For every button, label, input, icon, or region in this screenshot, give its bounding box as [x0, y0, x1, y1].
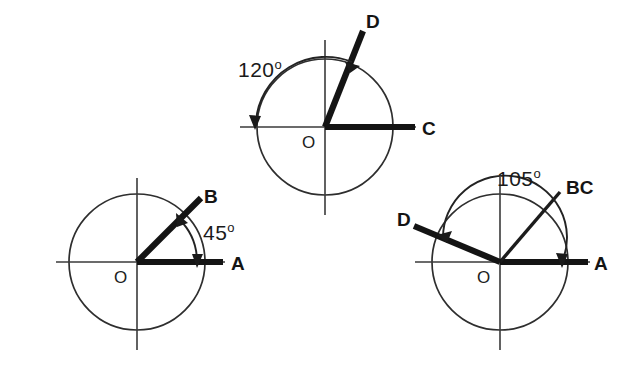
point-label-D-3: D [397, 209, 411, 230]
ray-OBC-3 [500, 192, 560, 262]
degree-symbol-2: o [275, 57, 283, 72]
point-label-D-2: D [366, 11, 380, 32]
diagram-105-degrees: D A BC O 105o [397, 166, 608, 350]
point-label-BC-3: BC [566, 177, 594, 198]
origin-label-3: O [477, 268, 490, 287]
point-label-A-1: A [231, 253, 245, 274]
degree-symbol-3: o [534, 166, 542, 181]
angle-number-2: 120 [238, 58, 275, 81]
diagram-120-degrees: D C O 120o [238, 11, 436, 215]
ray-OB-1 [137, 198, 201, 262]
ray-OD-2 [325, 31, 363, 127]
origin-label-1: O [114, 268, 127, 287]
point-label-C-2: C [422, 118, 436, 139]
point-label-A-3: A [594, 253, 608, 274]
angle-number-3: 105 [497, 167, 534, 190]
degree-symbol-1: o [227, 220, 235, 235]
angle-number-1: 45 [203, 221, 227, 244]
ray-OD-3 [414, 226, 500, 262]
angle-value-1: 45o [203, 220, 235, 244]
diagram-45-degrees: B A O 45o [56, 178, 245, 350]
point-label-B-1: B [204, 186, 218, 207]
angle-diagrams-figure: B A O 45o D C O 120o [0, 0, 639, 387]
angle-value-3: 105o [497, 166, 541, 190]
origin-label-2: O [302, 133, 315, 152]
